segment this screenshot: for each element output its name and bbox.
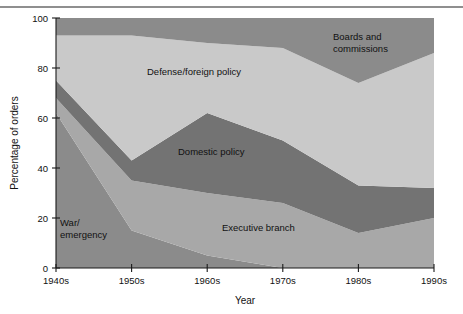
x-axis-tick-labels: 1940s1950s1960s1970s1980s1990s: [43, 275, 447, 286]
y-tick-label-40: 40: [37, 163, 48, 174]
series-label-boards-and-commissions-line2: commissions: [333, 43, 388, 54]
x-tick-label-1980s: 1980s: [345, 275, 371, 286]
y-tick-label-20: 20: [37, 213, 48, 224]
x-tick-label-1990s: 1990s: [421, 275, 447, 286]
series-label-boards-and-commissions-line1: Boards and: [333, 31, 382, 42]
chart-figure: 0204060801001940s1950s1960s1970s1980s199…: [0, 0, 463, 314]
series-label-executive-branch: Executive branch: [222, 222, 295, 233]
y-axis-title: Percentage of orders: [9, 96, 20, 189]
x-tick-label-1960s: 1960s: [194, 275, 220, 286]
x-tick-label-1950s: 1950s: [119, 275, 145, 286]
series-label-defense-foreign-policy: Defense/foreign policy: [147, 66, 241, 77]
series-label-war-emergency-line1: War/: [60, 217, 80, 228]
stacked-area-chart: 0204060801001940s1950s1960s1970s1980s199…: [0, 0, 463, 314]
series-label-domestic-policy: Domestic policy: [178, 146, 245, 157]
y-tick-label-0: 0: [43, 263, 48, 274]
x-axis-title: Year: [235, 295, 256, 306]
y-tick-label-100: 100: [32, 13, 48, 24]
x-tick-label-1940s: 1940s: [43, 275, 69, 286]
series-label-boards-and-commissions: Boards and commissions: [333, 31, 388, 54]
y-tick-label-80: 80: [37, 63, 48, 74]
y-axis-tick-labels: 020406080100: [32, 13, 48, 274]
x-tick-label-1970s: 1970s: [270, 275, 296, 286]
top-rule-divider: [0, 6, 463, 8]
series-label-war-emergency-line2: emergency: [60, 229, 107, 240]
y-tick-label-60: 60: [37, 113, 48, 124]
